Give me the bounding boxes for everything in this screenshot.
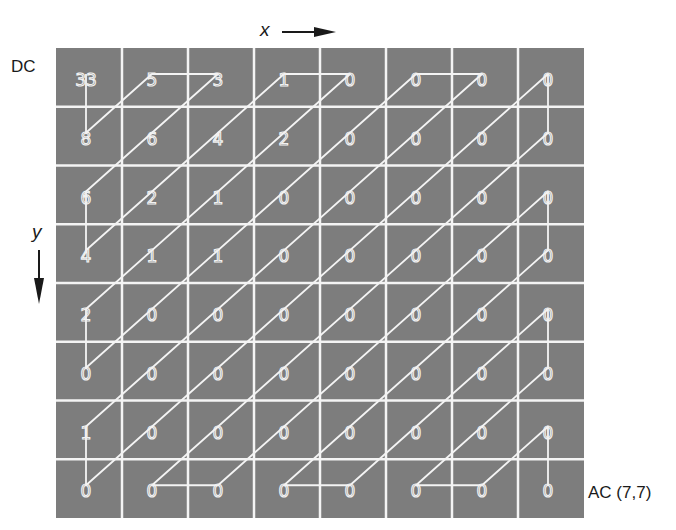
coefficient-cell: 2 — [147, 188, 158, 208]
zigzag-diagram: 3353100008642000062100000411000002000000… — [0, 0, 676, 530]
coefficient-cell: 6 — [147, 129, 158, 149]
coefficient-cell: 0 — [477, 364, 488, 384]
coefficient-cell: 0 — [147, 305, 158, 325]
coefficient-cell: 0 — [543, 305, 554, 325]
coefficient-cell: 0 — [81, 364, 92, 384]
y-axis-label: y — [32, 222, 42, 241]
coefficient-cell: 2 — [279, 129, 290, 149]
coefficient-cell: 0 — [213, 481, 224, 501]
coefficient-cell: 0 — [477, 423, 488, 443]
coefficient-cell: 0 — [345, 423, 356, 443]
coefficient-cell: 0 — [477, 188, 488, 208]
x-arrow-icon — [282, 27, 336, 37]
coefficient-cell: 0 — [543, 246, 554, 266]
coefficient-cell: 0 — [477, 70, 488, 90]
coefficient-cell: 0 — [345, 246, 356, 266]
coefficient-cell: 1 — [81, 423, 92, 443]
coefficient-cell: 0 — [477, 129, 488, 149]
coefficient-cell: 0 — [411, 70, 422, 90]
coefficient-cell: 0 — [477, 246, 488, 266]
coefficient-cell: 0 — [345, 305, 356, 325]
coefficient-cell: 1 — [279, 70, 290, 90]
coefficient-cell: 0 — [543, 364, 554, 384]
coefficient-cell: 0 — [543, 423, 554, 443]
coefficient-cell: 0 — [279, 364, 290, 384]
coefficient-cell: 0 — [279, 246, 290, 266]
coefficient-cell: 0 — [147, 481, 158, 501]
coefficient-cell: 0 — [81, 481, 92, 501]
coefficient-cell: 0 — [411, 188, 422, 208]
coefficient-cell: 8 — [81, 129, 92, 149]
coefficient-cell: 0 — [279, 423, 290, 443]
coefficient-cell: 1 — [147, 246, 158, 266]
dc-label: DC — [11, 58, 36, 75]
coefficient-cell: 0 — [147, 364, 158, 384]
coefficient-cell: 0 — [543, 481, 554, 501]
coefficient-cell: 0 — [543, 188, 554, 208]
coefficient-cell: 0 — [345, 188, 356, 208]
coefficient-cell: 4 — [213, 129, 224, 149]
coefficient-cell: 0 — [213, 364, 224, 384]
coefficient-cell: 4 — [81, 246, 92, 266]
coefficient-cell: 0 — [543, 70, 554, 90]
coefficient-cell: 33 — [75, 70, 97, 90]
coefficient-cell: 0 — [279, 481, 290, 501]
coefficient-cell: 0 — [279, 188, 290, 208]
coefficient-cell: 2 — [81, 305, 92, 325]
coefficient-cell: 0 — [279, 305, 290, 325]
coefficient-cell: 0 — [345, 129, 356, 149]
coefficient-cell: 0 — [213, 423, 224, 443]
coefficient-cell: 6 — [81, 188, 92, 208]
coefficient-cell: 3 — [213, 70, 224, 90]
coefficient-cell: 0 — [345, 364, 356, 384]
coefficient-cell: 0 — [411, 129, 422, 149]
ac-end-label: AC (7,7) — [588, 484, 651, 501]
coefficient-cell: 0 — [411, 305, 422, 325]
coefficient-cell: 0 — [477, 481, 488, 501]
y-arrow-icon — [34, 250, 44, 304]
coefficient-cell: 0 — [411, 246, 422, 266]
coefficient-cell: 0 — [147, 423, 158, 443]
coefficient-cell: 0 — [411, 423, 422, 443]
coefficient-cell: 0 — [411, 481, 422, 501]
coefficient-cell: 0 — [213, 305, 224, 325]
coefficient-cell: 0 — [345, 70, 356, 90]
coefficient-cell: 0 — [411, 364, 422, 384]
coefficient-cell: 0 — [345, 481, 356, 501]
coefficient-cell: 0 — [543, 129, 554, 149]
coefficient-cell: 1 — [213, 246, 224, 266]
dct-grid: 3353100008642000062100000411000002000000… — [0, 0, 676, 530]
x-axis-label: x — [260, 20, 270, 39]
coefficient-cell: 0 — [477, 305, 488, 325]
coefficient-cell: 5 — [147, 70, 158, 90]
coefficient-cell: 1 — [213, 188, 224, 208]
